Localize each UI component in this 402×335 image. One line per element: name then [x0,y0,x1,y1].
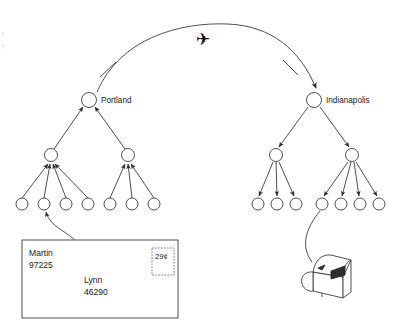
mailbox-icon[interactable] [302,255,351,298]
edge-envelope-to-pdx-leaf2 [46,212,77,243]
edge-ind-midleft-leaf3 [279,162,294,196]
edge-ind-hub-midright [320,107,349,147]
node-ind-leaf-4[interactable] [316,198,328,210]
node-ind-leaf-5[interactable] [335,198,347,210]
envelope-sender-zip: 97225 [29,260,53,270]
edge-ind-hub-midleft [279,107,308,147]
postage-stamp-icon[interactable]: 29¢ [152,248,174,275]
edge-ind-midleft-leaf2 [276,162,277,196]
edge-pdx-leaf2-mid [44,164,50,198]
edge-pdx-leaf1-mid [22,164,48,198]
mail-routing-diagram: s y ✈ [0,0,402,335]
airplane-glyph: ✈ [196,29,210,49]
corner-mark-line1: s [1,28,5,38]
node-indianapolis-hub[interactable] [307,93,322,108]
node-ind-leaf-3[interactable] [290,198,302,210]
node-ind-leaf-6[interactable] [354,198,366,210]
node-ind-leaf-2[interactable] [271,198,283,210]
node-pdx-leaf-3[interactable] [60,198,72,210]
airplane-icon: ✈ [196,29,210,49]
indianapolis-tree: Indianapolis [252,93,385,211]
edge-pdx-leaf6-mid [128,164,132,198]
node-pdx-mid-right[interactable] [122,149,135,162]
node-pdx-leaf-2[interactable] [38,198,50,210]
node-pdx-leaf-1[interactable] [16,198,28,210]
arc-tick-left [100,62,116,77]
edge-pdx-midleft-hub [54,107,83,149]
portland-tree: Portland [16,93,160,211]
edge-ind-midright-leaf5 [342,162,351,196]
edge-pdx-leaf7-mid [131,164,154,198]
edge-ind-midright-leaf6 [354,162,359,196]
node-ind-mid-right[interactable] [346,149,359,162]
edge-pdx-midright-hub [95,107,125,149]
label-indianapolis: Indianapolis [326,96,370,105]
edge-ind-midleft-leaf1 [259,162,273,196]
node-ind-leaf-7[interactable] [373,198,385,210]
label-portland: Portland [101,96,132,105]
mailbox-door[interactable] [302,272,313,291]
stamp-value: 29¢ [155,252,168,261]
corner-mark-line2: y [1,40,6,50]
node-ind-mid-left[interactable] [270,149,283,162]
edge-ind-leaf4-to-mailbox [306,211,320,262]
node-pdx-mid-left[interactable] [45,149,58,162]
edge-ind-midright-leaf7 [356,162,377,196]
node-ind-leaf-1[interactable] [252,198,264,210]
arc-tick-right [283,60,298,75]
edge-pdx-leaf5-mid [110,164,125,198]
envelope-icon[interactable]: Martin 97225 Lynn 46290 29¢ [22,240,178,318]
node-portland-hub[interactable] [82,93,97,108]
diagram-canvas: s y ✈ [0,0,402,335]
envelope-recipient-name: Lynn [84,275,103,285]
node-pdx-leaf-5[interactable] [104,198,116,210]
envelope-recipient-zip: 46290 [84,287,108,297]
node-pdx-leaf-7[interactable] [148,198,160,210]
node-pdx-leaf-6[interactable] [126,198,138,210]
envelope-sender-name: Martin [29,248,53,258]
edge-ind-midright-leaf4 [324,162,348,196]
corner-artifact: s y [1,28,6,50]
node-pdx-leaf-4[interactable] [82,198,94,210]
